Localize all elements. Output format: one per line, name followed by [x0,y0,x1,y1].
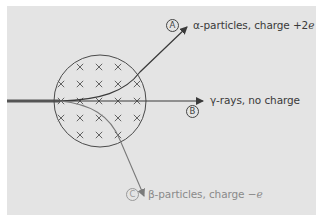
alpha-particle-path [60,27,187,101]
beta-particle-path [60,101,144,196]
gamma-label: γ-rays, no charge [210,94,300,106]
alpha-label-var: e [308,19,314,31]
tag-b: B [186,105,199,118]
tag-c: C [126,188,139,201]
tag-a: A [166,19,179,32]
beta-label-text: β-particles, charge − [148,188,256,200]
gamma-label-text: γ-rays, no charge [210,94,300,106]
beta-label-var: e [256,188,262,200]
alpha-label-text: α-particles, charge +2 [193,19,308,31]
alpha-label: α-particles, charge +2e [193,19,314,31]
beta-label: β-particles, charge −e [148,188,263,200]
